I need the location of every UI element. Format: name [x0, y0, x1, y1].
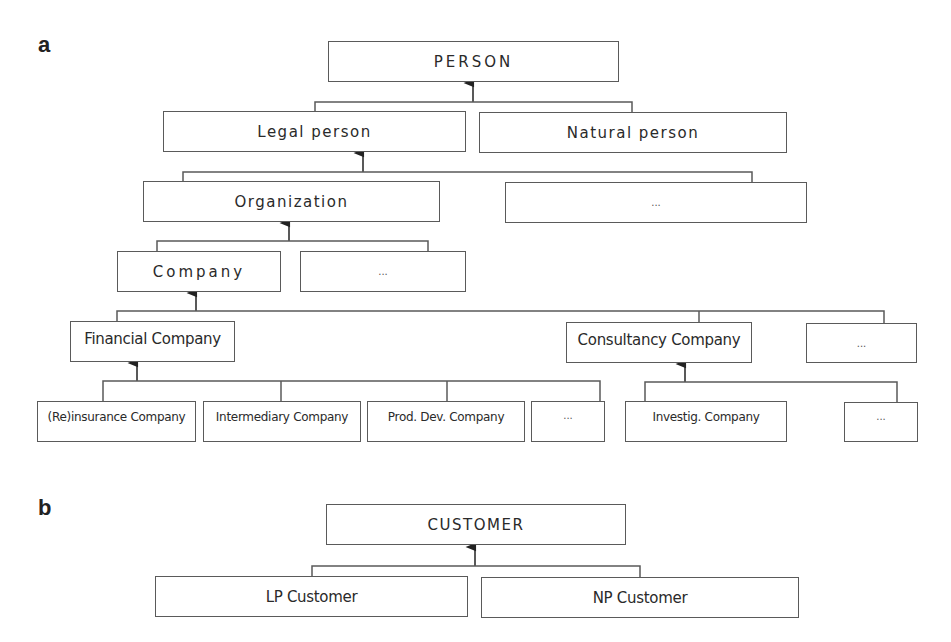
- node-np-customer: NP Customer: [481, 577, 799, 618]
- node-financial-other: ...: [531, 401, 605, 442]
- node-company-other: ...: [806, 323, 917, 363]
- ellipsis-label: ...: [378, 266, 388, 277]
- node-person: PERSON: [328, 41, 619, 82]
- ellipsis-label: ...: [651, 197, 661, 208]
- node-consultancy-company: Consultancy Company: [566, 322, 752, 363]
- node-investig-company: Investig. Company: [625, 401, 787, 442]
- node-customer: CUSTOMER: [326, 504, 626, 545]
- node-person-label: PERSON: [434, 53, 514, 71]
- node-legal-person: Legal person: [163, 111, 466, 152]
- panel-label-b: b: [38, 495, 51, 521]
- node-organization-other: ...: [300, 251, 466, 292]
- node-prod-dev-company-label: Prod. Dev. Company: [388, 410, 504, 424]
- node-np-customer-label: NP Customer: [593, 589, 688, 607]
- ellipsis-label: ...: [857, 338, 867, 349]
- node-investig-company-label: Investig. Company: [652, 410, 759, 424]
- node-intermediary-company: Intermediary Company: [203, 401, 361, 442]
- node-company: Company: [117, 251, 281, 292]
- node-reinsurance-company-label: (Re)insurance Company: [48, 410, 186, 424]
- node-company-label: Company: [153, 263, 245, 281]
- panel-label-a: a: [38, 32, 50, 58]
- node-financial-company: Financial Company: [70, 321, 235, 362]
- node-organization: Organization: [143, 181, 440, 222]
- node-prod-dev-company: Prod. Dev. Company: [367, 401, 525, 442]
- node-intermediary-company-label: Intermediary Company: [216, 410, 348, 424]
- node-natural-person: Natural person: [479, 112, 787, 153]
- node-reinsurance-company: (Re)insurance Company: [37, 401, 196, 442]
- node-consultancy-company-label: Consultancy Company: [578, 331, 741, 349]
- node-organization-label: Organization: [235, 193, 349, 211]
- ellipsis-label: ...: [876, 411, 886, 422]
- node-lp-customer: LP Customer: [155, 576, 468, 617]
- node-lp-customer-label: LP Customer: [266, 588, 358, 606]
- node-customer-label: CUSTOMER: [428, 516, 525, 534]
- node-natural-person-label: Natural person: [567, 124, 700, 142]
- ellipsis-label: ...: [563, 410, 573, 421]
- node-legal-other: ...: [505, 182, 807, 223]
- node-financial-company-label: Financial Company: [84, 330, 221, 348]
- node-legal-person-label: Legal person: [257, 123, 371, 141]
- node-consultancy-other: ...: [844, 402, 918, 442]
